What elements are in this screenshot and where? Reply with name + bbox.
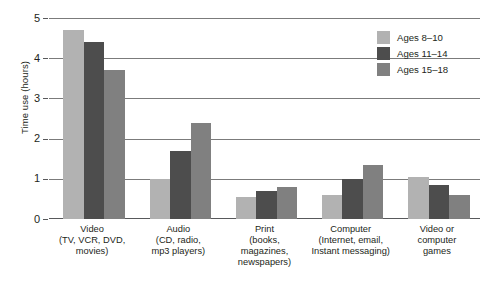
- y-tick-label: 5: [22, 13, 40, 24]
- bar: [191, 123, 212, 219]
- legend-swatch: [377, 47, 390, 60]
- x-axis-label-line: Video or: [380, 224, 489, 235]
- y-tick-label: 2: [22, 133, 40, 144]
- y-tick-mark: [43, 58, 48, 59]
- y-tick-mark: [43, 179, 48, 180]
- bar: [449, 195, 470, 219]
- legend-item: Ages 15–18: [377, 62, 489, 77]
- bar: [429, 185, 450, 219]
- legend-item: Ages 11–14: [377, 46, 489, 61]
- y-tick-label: 3: [22, 93, 40, 104]
- bar-group: [150, 18, 212, 219]
- bar: [277, 187, 298, 219]
- legend-label: Ages 15–18: [397, 63, 448, 76]
- y-tick-mark: [43, 139, 48, 140]
- x-axis-label: Video orcomputergames: [380, 224, 489, 257]
- y-tick-mark: [43, 219, 48, 220]
- legend: Ages 8–10Ages 11–14Ages 15–18: [377, 30, 489, 78]
- bar: [150, 179, 171, 219]
- bar-group: [322, 18, 384, 219]
- legend-swatch: [377, 63, 390, 76]
- bar-chart: Time use (hours) 543210 Video(TV, VCR, D…: [0, 0, 489, 286]
- bar: [84, 42, 105, 219]
- x-axis-label-line: computer: [380, 235, 489, 246]
- bar: [322, 195, 343, 219]
- bar: [104, 70, 125, 219]
- bar-group: [63, 18, 125, 219]
- y-tick-label: 0: [22, 214, 40, 225]
- legend-label: Ages 11–14: [397, 47, 448, 60]
- legend-swatch: [377, 31, 390, 44]
- y-tick-label: 1: [22, 173, 40, 184]
- bar: [342, 179, 363, 219]
- x-axis-label-line: newspapers): [207, 257, 321, 268]
- y-tick-mark: [43, 98, 48, 99]
- y-tick-label: 4: [22, 53, 40, 64]
- bar-group: [236, 18, 298, 219]
- bar: [256, 191, 277, 219]
- x-axis-label-line: games: [380, 246, 489, 257]
- bar: [363, 165, 384, 219]
- y-tick-mark: [43, 18, 48, 19]
- legend-item: Ages 8–10: [377, 30, 489, 45]
- bar: [170, 151, 191, 219]
- legend-label: Ages 8–10: [397, 31, 443, 44]
- bar: [63, 30, 84, 219]
- bar: [408, 177, 429, 219]
- bar: [236, 197, 257, 219]
